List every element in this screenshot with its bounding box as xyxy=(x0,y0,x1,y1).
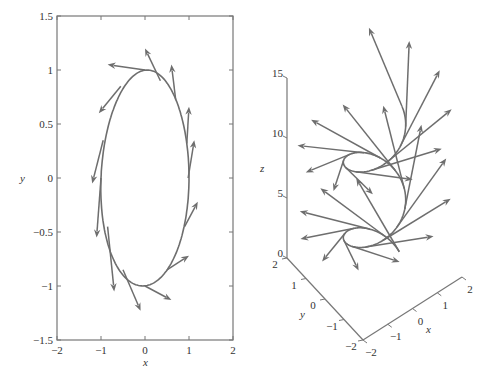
y-tick-label: 1.5 xyxy=(39,10,53,22)
tangent-arrow-2d xyxy=(145,286,171,300)
tangent-arrow-3d xyxy=(382,199,450,241)
figure: −2−10121.510.50−0.5−1−1.5 x y −2−1012−2−… xyxy=(0,0,493,383)
tangent-arrow-3d xyxy=(369,28,402,107)
tangent-arrow-3d xyxy=(356,172,413,182)
z-tick-label-3d: 0 xyxy=(278,247,284,259)
tangent-arrow-2d xyxy=(188,140,196,178)
tangent-arrow-2d xyxy=(123,270,141,311)
z-tick-label-3d: 15 xyxy=(272,67,284,79)
x-tick-label: −1 xyxy=(95,344,107,356)
tangent-arrow-2d xyxy=(169,65,176,101)
y-tick-label-3d: −1 xyxy=(326,320,338,332)
tangent-arrow-2d xyxy=(94,178,101,237)
tangent-arrow-2d xyxy=(167,256,189,270)
tangent-arrow-3d xyxy=(297,143,363,152)
tangent-arrows-2d xyxy=(91,48,198,310)
y-tick-label: 0.5 xyxy=(39,118,53,130)
y-tick-label-3d: 0 xyxy=(310,299,316,311)
x-tick-label-3d: 2 xyxy=(467,283,473,295)
tangent-arrow-3d xyxy=(356,178,399,252)
plot-2d-xlabel: x xyxy=(142,356,148,368)
tangent-arrow-3d xyxy=(344,241,359,271)
plot-2d-frame xyxy=(57,16,233,340)
x-tick-label-3d: −1 xyxy=(390,330,402,342)
tangent-arrow-3d xyxy=(366,234,434,247)
tangent-arrow-3d xyxy=(352,246,400,262)
tangent-arrow-3d xyxy=(300,210,370,229)
y-tick-label: −1.5 xyxy=(33,334,53,346)
y-tick-label-3d: 2 xyxy=(272,258,278,270)
helix-curve xyxy=(297,28,451,271)
ellipse-curve xyxy=(101,70,189,286)
plot-3d-ylabel: y xyxy=(299,308,305,320)
tangent-arrow-3d xyxy=(388,109,452,161)
y-tick-label: 1 xyxy=(48,64,54,76)
tangent-arrow-3d xyxy=(343,104,396,170)
tangent-arrow-2d xyxy=(108,227,117,292)
y-tick-label: −1 xyxy=(41,280,53,292)
plot-3d-helix: −2−1012−2−1012051015 z y x xyxy=(259,28,473,358)
tangent-arrow-3d xyxy=(406,41,412,127)
y-tick-label: −0.5 xyxy=(33,226,53,238)
tangent-arrow-2d xyxy=(108,63,145,70)
y-tick-label: 0 xyxy=(48,172,54,184)
plot-2d-ticks: −2−10121.510.50−0.5−1−1.5 xyxy=(33,10,236,356)
tangent-arrow-3d xyxy=(322,233,345,261)
plot-2d-ylabel: y xyxy=(19,172,25,184)
z-tick-label-3d: 5 xyxy=(278,187,284,199)
x-tick-label: 0 xyxy=(142,344,148,356)
x-tick-label-3d: 0 xyxy=(418,315,424,327)
tangent-arrow-3d xyxy=(333,160,344,191)
plot-3d-zlabel: z xyxy=(259,162,265,174)
plot-3d-xlabel: x xyxy=(425,323,431,335)
y-tick-label-3d: −2 xyxy=(345,340,357,352)
tangent-arrow-3d xyxy=(405,125,423,209)
tangent-arrow-2d xyxy=(145,48,160,80)
x-tick-label-3d: 1 xyxy=(443,299,449,311)
z-tick-label-3d: 10 xyxy=(272,127,284,139)
x-tick-label-3d: −2 xyxy=(365,346,377,358)
x-tick-label: 1 xyxy=(186,344,192,356)
x-tick-label: 2 xyxy=(230,344,236,356)
tangent-arrow-3d xyxy=(300,228,354,240)
plot-2d-ellipse: −2−10121.510.50−0.5−1−1.5 x y xyxy=(19,10,236,368)
y-tick-label-3d: 1 xyxy=(291,279,297,291)
